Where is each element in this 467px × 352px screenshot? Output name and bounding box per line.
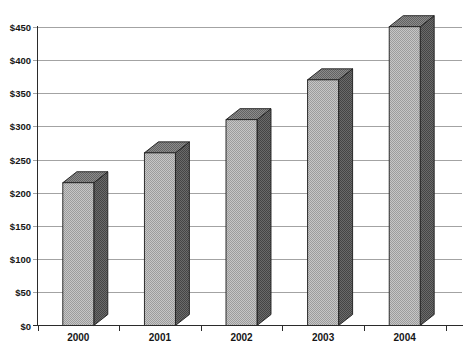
bar-chart-3d: $0$50$100$150$200$250$300$350$400$450200… xyxy=(0,0,467,352)
bar-2003 xyxy=(308,69,353,326)
bar-front-face xyxy=(389,27,420,326)
y-axis-tick-label: $300 xyxy=(10,121,31,132)
bar-side-face xyxy=(94,172,108,326)
x-axis-category-label: 2002 xyxy=(230,332,253,343)
y-axis-tick-label: $350 xyxy=(10,88,31,99)
chart-page: $0$50$100$150$200$250$300$350$400$450200… xyxy=(0,0,467,352)
x-axis-category-label: 2004 xyxy=(394,332,417,343)
x-axis-category-label: 2001 xyxy=(149,332,172,343)
y-axis-tick-label: $250 xyxy=(10,155,31,166)
bar-2004 xyxy=(389,16,434,326)
bar-side-face xyxy=(339,69,353,326)
bar-side-face xyxy=(257,109,271,326)
bar-front-face xyxy=(144,153,175,326)
x-axis-category-label: 2003 xyxy=(312,332,335,343)
y-axis-tick-label: $450 xyxy=(10,22,31,33)
y-axis-tick-label: $0 xyxy=(20,321,31,332)
y-axis-tick-label: $50 xyxy=(15,287,31,298)
y-axis-tick-label: $200 xyxy=(10,188,31,199)
bar-side-face xyxy=(175,142,189,326)
x-axis-category-label: 2000 xyxy=(67,332,90,343)
y-axis-tick-label: $100 xyxy=(10,254,31,265)
bar-front-face xyxy=(63,183,94,326)
y-axis-tick-label: $400 xyxy=(10,55,31,66)
bar-2000 xyxy=(63,172,108,326)
bar-2001 xyxy=(144,142,189,326)
bar-2002 xyxy=(226,109,271,326)
y-axis-tick-label: $150 xyxy=(10,221,31,232)
bar-front-face xyxy=(226,120,257,326)
bar-side-face xyxy=(420,16,434,326)
bar-front-face xyxy=(308,80,339,326)
